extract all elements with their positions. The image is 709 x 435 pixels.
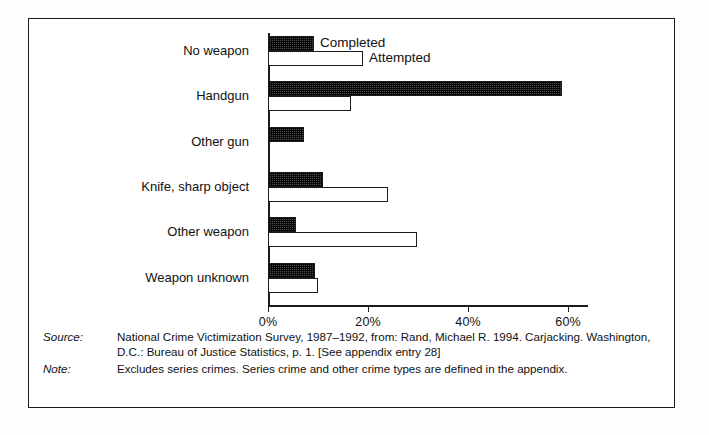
bar-attempted-5: [268, 278, 318, 293]
bar-attempted-0: [268, 51, 363, 66]
chart-page: No weaponHandgunOther gunKnife, sharp ob…: [0, 0, 709, 435]
chart-footer: Source: National Crime Victimization Sur…: [29, 319, 676, 378]
bar-completed-4: [268, 217, 296, 232]
legend-label-completed: Completed: [320, 35, 385, 50]
x-axis-line: [268, 305, 588, 307]
footer-source-label: Source:: [43, 329, 117, 344]
bar-completed-3: [268, 172, 323, 187]
bar-completed-5: [268, 263, 315, 278]
footer-source-text: National Crime Victimization Survey, 198…: [117, 329, 662, 359]
footer-source-row: Source: National Crime Victimization Sur…: [43, 329, 662, 359]
x-tick-0: [268, 305, 269, 312]
bar-attempted-1: [268, 96, 351, 111]
category-label-2: Other gun: [191, 134, 249, 149]
footer-note-row: Note: Excludes series crimes. Series cri…: [43, 361, 662, 376]
x-tick-1: [368, 305, 369, 312]
bar-completed-1: [268, 81, 562, 96]
bar-completed-2: [268, 127, 304, 142]
bar-chart: No weaponHandgunOther gunKnife, sharp ob…: [29, 19, 676, 319]
plot-area: 0%20%40%60% CompletedAttempted: [268, 33, 588, 305]
category-label-3: Knife, sharp object: [141, 179, 249, 194]
x-tick-2: [468, 305, 469, 312]
bar-completed-0: [268, 36, 314, 51]
chart-frame: No weaponHandgunOther gunKnife, sharp ob…: [28, 18, 675, 408]
category-label-column: No weaponHandgunOther gunKnife, sharp ob…: [29, 33, 261, 305]
category-label-1: Handgun: [196, 88, 249, 103]
x-tick-3: [568, 305, 569, 312]
bar-attempted-4: [268, 232, 417, 247]
legend-label-attempted: Attempted: [369, 50, 431, 65]
bar-attempted-3: [268, 187, 388, 202]
category-label-5: Weapon unknown: [145, 270, 249, 285]
footer-note-text: Excludes series crimes. Series crime and…: [117, 361, 662, 376]
footer-note-label: Note:: [43, 361, 117, 376]
category-label-4: Other weapon: [167, 224, 249, 239]
category-label-0: No weapon: [183, 43, 249, 58]
